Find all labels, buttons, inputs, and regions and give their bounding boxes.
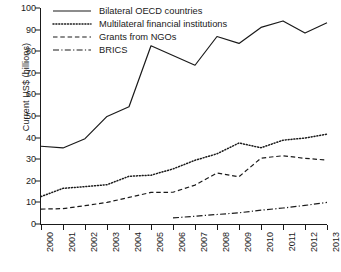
x-axis-tick-label: 2002 [89, 232, 99, 252]
x-axis-tick-mark [305, 225, 306, 230]
chart-legend: Bilateral OECD countriesMultilateral fin… [52, 4, 262, 56]
x-axis-tick-label: 2009 [243, 232, 253, 252]
x-axis-tick-label: 2007 [199, 232, 209, 252]
y-axis-tick-mark [35, 94, 40, 95]
x-axis-tick-mark [63, 225, 64, 230]
series-line [173, 202, 327, 218]
x-axis-tick-label: 2006 [177, 232, 187, 252]
legend-item-label: Bilateral OECD countries [99, 6, 202, 16]
x-axis-tick-mark [173, 225, 174, 230]
legend-item-label: Multilateral financial institutions [99, 19, 227, 29]
legend-item[interactable]: Multilateral financial institutions [52, 17, 262, 30]
x-axis-tick-label: 2012 [309, 232, 319, 252]
x-axis-tick-mark [283, 225, 284, 230]
x-axis-tick-mark [85, 225, 86, 230]
series-line [41, 156, 327, 209]
y-axis-tick-mark [35, 202, 40, 203]
y-axis-tick-mark [35, 159, 40, 160]
x-axis-tick-label: 2013 [331, 232, 341, 252]
x-axis-tick-mark [151, 225, 152, 230]
y-axis-tick-mark [35, 116, 40, 117]
x-axis-tick-mark [129, 225, 130, 230]
legend-line-sample [52, 19, 92, 29]
x-axis-tick-label: 2003 [111, 232, 121, 252]
y-axis-tick-mark [35, 8, 40, 9]
x-axis-tick-label: 2011 [287, 232, 297, 251]
x-axis-tick-mark [239, 225, 240, 230]
x-axis-tick-mark [327, 225, 328, 230]
x-axis-tick-mark [41, 225, 42, 230]
legend-item[interactable]: Bilateral OECD countries [52, 4, 262, 17]
y-axis-tick-mark [35, 137, 40, 138]
x-axis-tick-label: 2004 [133, 232, 143, 252]
legend-item-label: Grants from NGOs [99, 32, 177, 42]
x-axis-tick-label: 2005 [155, 232, 165, 252]
legend-line-sample [52, 32, 92, 42]
x-axis-tick-label: 2000 [45, 232, 55, 252]
x-axis-tick-label: 2008 [221, 232, 231, 252]
legend-item[interactable]: Grants from NGOs [52, 30, 262, 43]
y-axis-tick-mark [35, 180, 40, 181]
x-axis-tick-label: 2001 [67, 232, 77, 252]
series-line [41, 134, 327, 196]
legend-item[interactable]: BRICS [52, 43, 262, 56]
y-axis-tick-mark [35, 224, 40, 225]
x-axis-tick-label: 2010 [265, 232, 275, 252]
legend-line-sample [52, 45, 92, 55]
x-axis-tick-mark [261, 225, 262, 230]
y-axis-tick-mark [35, 72, 40, 73]
x-axis-tick-mark [217, 225, 218, 230]
x-axis-tick-mark [107, 225, 108, 230]
legend-item-label: BRICS [99, 45, 127, 55]
x-axis-tick-mark [195, 225, 196, 230]
y-axis-tick-labels: 1009080706050403020100 [12, 0, 36, 272]
y-axis-tick-mark [35, 29, 40, 30]
legend-line-sample [52, 6, 92, 16]
y-axis-tick-label: 100 [21, 3, 36, 13]
y-axis-tick-mark [35, 51, 40, 52]
